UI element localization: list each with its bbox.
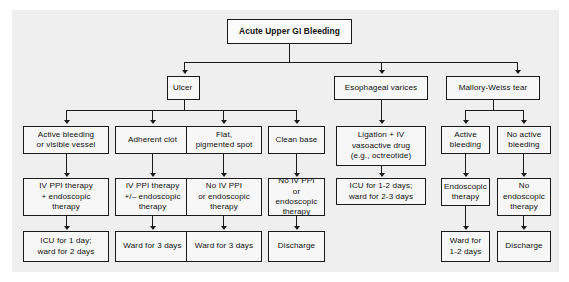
connector-finding-1-to-treatment [66, 154, 67, 173]
node-ward-for-3-days-b: Ward for 3 days [186, 231, 262, 262]
arrowhead-treatment-3 [221, 173, 227, 177]
arrowhead-varices [379, 70, 385, 74]
arrowhead-varices-disposition [379, 173, 385, 177]
connector-root-stem [289, 44, 290, 62]
arrowhead-ulcer-finding-4 [294, 120, 300, 124]
connector-mallory-drop-1 [465, 110, 466, 120]
arrowhead-treatment-2 [150, 173, 156, 177]
arrowhead-mallory [515, 70, 521, 74]
connector-varices-to-treatment [381, 100, 382, 120]
node-discharge-ulcer: Discharge [268, 231, 325, 262]
node-acute-upper-gi-bleeding: Acute Upper GI Bleeding [227, 19, 352, 44]
connector-mw-treatment-2-to-disposition [523, 216, 524, 226]
node-mw-active-bleeding: Active bleeding [441, 126, 490, 154]
connector-ulcer-drop-3 [223, 110, 224, 120]
arrowhead-ulcer-finding-3 [221, 120, 227, 124]
connector-mw-treatment-1-to-disposition [465, 206, 466, 226]
node-clean-base: Clean base [268, 126, 325, 154]
arrowhead-ulcer-finding-2 [150, 120, 156, 124]
node-flat-pigmented-spot: Flat, pigmented spot [186, 126, 262, 154]
connector-treatment-1-to-disposition [66, 216, 67, 226]
connector-treatment-4-to-disposition [296, 216, 297, 226]
connector-finding-4-to-treatment [296, 154, 297, 173]
node-iv-ppi-plus-minus-endoscopic-therapy: IV PPI therapy +/– endoscopic therapy [115, 178, 190, 216]
arrowhead-disposition-1 [64, 226, 70, 230]
connector-mw-finding-1-to-treatment [465, 154, 466, 173]
node-mw-endoscopic-therapy: Endoscopic therapy [441, 178, 490, 206]
arrowhead-varices-treatment [379, 120, 385, 124]
arrowhead-mw-disposition-1 [463, 226, 469, 230]
connector-treatment-3-to-disposition [223, 216, 224, 226]
connector-drop-varices [381, 62, 382, 70]
connector-treatment-2-to-disposition [152, 216, 153, 226]
arrowhead-disposition-3 [221, 226, 227, 230]
arrowhead-disposition-2 [150, 226, 156, 230]
connector-finding-2-to-treatment [152, 154, 153, 173]
node-esophageal-varices: Esophageal varices [334, 76, 428, 100]
node-icu-1-day-ward-2-days: ICU for 1 day; ward for 2 days [23, 231, 109, 262]
connector-ulcer-bus [66, 110, 296, 111]
flowchart-screenshot: Acute Upper GI Bleeding Ulcer Esophageal… [0, 0, 569, 282]
connector-drop-mallory [517, 62, 518, 70]
node-icu-1-2-days-ward-2-3-days: ICU for 1-2 days; ward for 2-3 days [336, 178, 426, 205]
arrowhead-disposition-4 [294, 226, 300, 230]
node-mw-discharge: Discharge [497, 231, 551, 262]
arrowhead-mw-disposition-2 [521, 226, 527, 230]
node-ward-for-3-days-a: Ward for 3 days [115, 231, 190, 262]
diagram-panel: Acute Upper GI Bleeding Ulcer Esophageal… [12, 10, 559, 272]
node-adherent-clot: Adherent clot [115, 126, 190, 154]
node-mallory-weiss-tear: Mallory-Weiss tear [446, 76, 540, 100]
node-iv-ppi-plus-endoscopic-therapy: IV PPI therapy + endoscopic therapy [23, 178, 109, 216]
connector-main-bus [184, 62, 517, 63]
arrowhead-ulcer [182, 70, 188, 74]
connector-ulcer-stem [184, 100, 185, 110]
connector-mallory-drop-2 [523, 110, 524, 120]
connector-ulcer-drop-4 [296, 110, 297, 120]
node-mw-no-endoscopic-therapy: No endoscopic therapy [497, 178, 551, 216]
node-ulcer: Ulcer [167, 76, 200, 100]
arrowhead-mallory-finding-1 [463, 120, 469, 124]
arrowhead-mallory-finding-2 [521, 120, 527, 124]
node-active-bleeding-or-visible-vessel: Active bleeding or visible vessel [23, 126, 109, 154]
connector-mallory-stem [493, 100, 494, 110]
node-mw-ward-1-2-days: Ward for 1-2 days [441, 231, 490, 262]
node-no-iv-ppi-or-endoscopic-therapy-b: No IV PPI or endoscopic therapy [268, 178, 325, 216]
arrowhead-ulcer-finding-1 [64, 120, 70, 124]
connector-drop-ulcer [184, 62, 185, 70]
arrowhead-mw-treatment-1 [463, 173, 469, 177]
node-mw-no-active-bleeding: No active bleeding [497, 126, 551, 154]
arrowhead-treatment-1 [64, 173, 70, 177]
connector-mallory-bus [465, 110, 523, 111]
node-ligation-vasoactive-drug: Ligation + IV vasoactive drug (e.g., oct… [336, 126, 426, 166]
connector-finding-3-to-treatment [223, 154, 224, 173]
node-no-iv-ppi-or-endoscopic-therapy-a: No IV PPI or endoscopic therapy [186, 178, 262, 216]
connector-varices-to-disposition [381, 166, 382, 173]
arrowhead-mw-treatment-2 [521, 173, 527, 177]
connector-ulcer-drop-1 [66, 110, 67, 120]
connector-ulcer-drop-2 [152, 110, 153, 120]
connector-mw-finding-2-to-treatment [523, 154, 524, 173]
